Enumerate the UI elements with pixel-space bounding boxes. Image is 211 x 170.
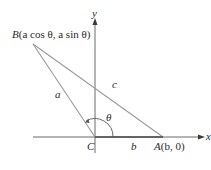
point-a-label: A(b, 0) [154,141,185,152]
point-b-label: B(a cos θ, a sin θ) [12,29,90,40]
side-c-label: c [112,79,117,90]
point-a-coords: (b, 0) [161,140,185,152]
y-axis-label: y [92,8,97,19]
side-a-label: a [55,89,61,100]
side-b-label: b [131,141,137,152]
point-b-name: B [12,28,19,40]
point-b-coords: (a cos θ, a sin θ) [19,28,91,40]
x-axis-label: x [206,131,211,142]
side-c [33,44,163,137]
side-a [33,44,95,137]
point-c-label: C [87,141,94,152]
angle-theta-label: θ [106,112,111,123]
y-axis-arrow-icon [93,18,98,25]
point-a-name: A [154,140,161,152]
x-axis-arrow-icon [198,135,205,140]
